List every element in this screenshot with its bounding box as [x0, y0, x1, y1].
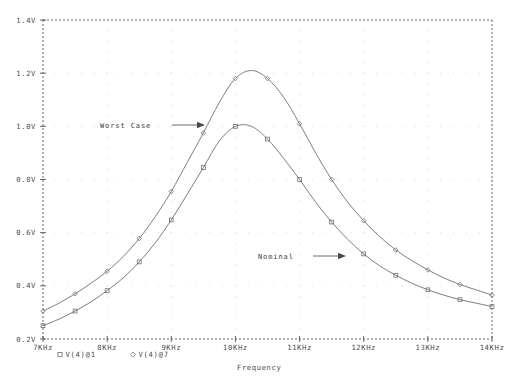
- grid-dot: [427, 136, 428, 137]
- y-tick-label: 1.2V: [16, 69, 36, 78]
- grid-dot: [235, 232, 236, 233]
- grid-dot: [312, 179, 313, 180]
- grid-dot: [171, 30, 172, 31]
- grid-dot: [171, 275, 172, 276]
- grid-dot: [235, 296, 236, 297]
- grid-dot: [184, 179, 185, 180]
- grid-dot: [299, 285, 300, 286]
- grid-dot: [363, 264, 364, 265]
- grid-dot: [235, 253, 236, 254]
- grid-dot: [107, 30, 108, 31]
- grid-dot: [453, 232, 454, 233]
- grid-dot: [248, 126, 249, 127]
- grid-dot: [363, 179, 364, 180]
- grid-dot: [427, 62, 428, 63]
- grid-dot: [119, 73, 120, 74]
- grid-dot: [248, 285, 249, 286]
- grid-dot: [235, 115, 236, 116]
- grid-dot: [363, 243, 364, 244]
- grid-dot: [427, 94, 428, 95]
- grid-dot: [273, 232, 274, 233]
- grid-dot: [68, 285, 69, 286]
- grid-dot: [363, 62, 364, 63]
- grid-dot: [235, 285, 236, 286]
- grid-dot: [363, 307, 364, 308]
- grid-dot: [235, 30, 236, 31]
- x-tick-label: 13KHz: [416, 343, 441, 352]
- x-tick-label: 11KHz: [287, 343, 312, 352]
- grid-dot: [466, 179, 467, 180]
- grid-dot: [171, 73, 172, 74]
- grid-dot: [209, 179, 210, 180]
- grid-dot: [222, 179, 223, 180]
- annotation-nominal-label: Nominal: [258, 253, 294, 261]
- legend-item-V41[interactable]: V(4)@1: [58, 350, 96, 359]
- grid-dot: [235, 264, 236, 265]
- grid-dot: [299, 136, 300, 137]
- grid-dot: [132, 179, 133, 180]
- grid-dot: [427, 126, 428, 127]
- grid-dot: [299, 232, 300, 233]
- grid-dot: [479, 179, 480, 180]
- grid-dot: [171, 51, 172, 52]
- grid-dot: [107, 83, 108, 84]
- grid-dot: [261, 232, 262, 233]
- arrow-head-icon: [197, 122, 205, 128]
- grid-dot: [427, 147, 428, 148]
- probe-waveform-plot: 0.2V0.4V0.6V0.8V1.0V1.2V1.4V 7KHz8KHz9KH…: [0, 0, 512, 383]
- grid-dot: [299, 307, 300, 308]
- grid-dot: [363, 126, 364, 127]
- grid-dot: [196, 285, 197, 286]
- grid-dot: [235, 179, 236, 180]
- grid-dot: [209, 73, 210, 74]
- grid-dot: [248, 179, 249, 180]
- grid-dot: [427, 115, 428, 116]
- grid-dot: [107, 243, 108, 244]
- grid-dot: [312, 73, 313, 74]
- grid-dot: [363, 317, 364, 318]
- grid-dot: [261, 126, 262, 127]
- grid-dot: [107, 307, 108, 308]
- grid-dot: [402, 285, 403, 286]
- grid-dot: [427, 179, 428, 180]
- grid-dot: [209, 232, 210, 233]
- grid-dot: [107, 168, 108, 169]
- grid-dot: [196, 73, 197, 74]
- grid-dot: [427, 253, 428, 254]
- y-tick-label: 1.0V: [16, 122, 36, 131]
- grid-dot: [171, 285, 172, 286]
- grid-dot: [222, 285, 223, 286]
- grid-dot: [350, 179, 351, 180]
- y-tick-label: 0.6V: [16, 228, 36, 237]
- grid-dot: [171, 243, 172, 244]
- grid-dot: [299, 147, 300, 148]
- grid-dot: [171, 179, 172, 180]
- grid-dot: [107, 190, 108, 191]
- grid-dots: [43, 20, 493, 340]
- grid-dot: [453, 285, 454, 286]
- grid-dot: [107, 317, 108, 318]
- grid-dot: [415, 179, 416, 180]
- series-worst-case: [41, 71, 495, 314]
- grid-dot: [94, 232, 95, 233]
- grid-dot: [427, 275, 428, 276]
- grid-dot: [427, 105, 428, 106]
- grid-dot: [479, 285, 480, 286]
- grid-dot: [107, 232, 108, 233]
- grid-dot: [299, 317, 300, 318]
- y-axis-ticks: [40, 20, 46, 339]
- grid-dot: [350, 73, 351, 74]
- grid-dot: [209, 126, 210, 127]
- legend-item-V47[interactable]: V(4)@7: [131, 350, 169, 359]
- grid-dot: [119, 285, 120, 286]
- grid-dot: [299, 62, 300, 63]
- grid-dot: [286, 179, 287, 180]
- grid-dot: [235, 211, 236, 212]
- grid-dot: [107, 136, 108, 137]
- grid-dot: [273, 285, 274, 286]
- grid-dot: [171, 105, 172, 106]
- diamond-marker-icon: [131, 352, 136, 357]
- grid-dot: [402, 232, 403, 233]
- grid-dot: [171, 264, 172, 265]
- grid-dot: [145, 232, 146, 233]
